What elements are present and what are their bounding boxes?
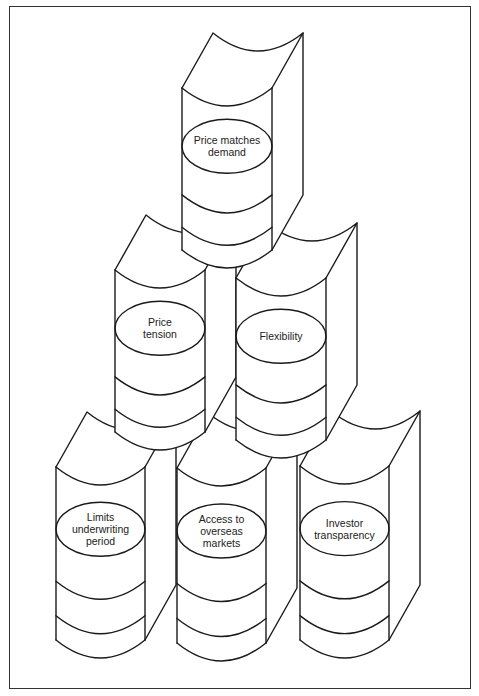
- book-label-investor-transparency: Investor transparency: [314, 517, 375, 541]
- book-label-flexibility: Flexibility: [259, 330, 302, 342]
- books-pyramid-diagram: [0, 0, 479, 696]
- book-label-price-tension: Price tension: [143, 316, 177, 340]
- book-label-limits-underwriting-period: Limits underwriting period: [72, 511, 129, 547]
- book-label-access-to-overseas-markets: Access to overseas markets: [199, 513, 245, 549]
- book-label-price-matches-demand: Price matches demand: [194, 134, 261, 158]
